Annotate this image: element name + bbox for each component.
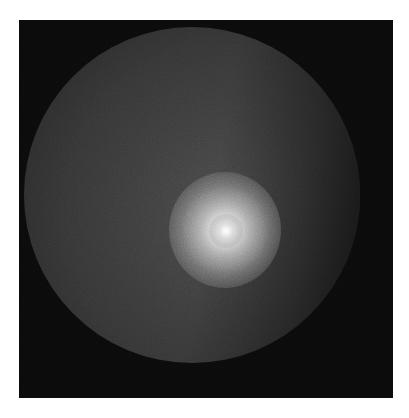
- image-frame: [19, 20, 393, 398]
- noise-texture: [19, 20, 393, 398]
